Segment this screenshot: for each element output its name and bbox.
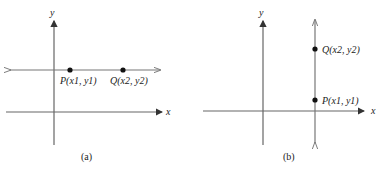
x-axis-label: x [370,105,376,116]
panel-b-caption: (b) [283,151,295,163]
y-axis-label: y [258,7,264,18]
point-p [312,97,317,102]
point-p [67,67,72,72]
point-q-label: Q(x2, y2) [110,75,148,87]
point-q [120,67,125,72]
panel-b: y x Q(x2, y2) P(x1, y1) (b) [203,7,376,163]
figure-canvas: y x P(x1, y1) Q(x2, y2) (a) y x Q(x2, y2… [0,0,382,170]
x-axis-label: x [165,106,171,117]
point-q-label: Q(x2, y2) [322,44,360,56]
point-p-label: P(x1, y1) [59,75,97,87]
panel-a: y x P(x1, y1) Q(x2, y2) (a) [6,7,171,163]
point-p-label: P(x1, y1) [321,95,359,107]
panel-a-caption: (a) [81,151,92,163]
point-q [312,46,317,51]
y-axis-label: y [49,7,55,18]
